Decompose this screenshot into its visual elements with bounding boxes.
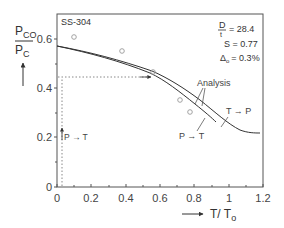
param-t: t bbox=[220, 31, 222, 38]
annotation-p-to-t: P → T bbox=[179, 131, 205, 141]
param-delta-sub: o bbox=[226, 58, 230, 64]
data-point bbox=[188, 110, 193, 115]
y-label-denominator: P bbox=[15, 43, 23, 57]
y-label-numerator-sub: CO bbox=[23, 30, 37, 40]
x-tick-label: 0.6 bbox=[152, 192, 167, 204]
param-d-over-t-value: = 28.4 bbox=[229, 24, 254, 34]
y-tick-label: 0.4 bbox=[37, 82, 52, 94]
y-tick-label: 0 bbox=[46, 181, 52, 193]
analysis-curves bbox=[57, 46, 260, 133]
param-s-value: S = 0.77 bbox=[224, 39, 258, 49]
y-label-denominator-sub: C bbox=[23, 49, 30, 59]
parameters-legend: D t = 28.4 S = 0.77 Δo= 0.3% bbox=[218, 20, 260, 64]
svg-text:PC: PC bbox=[15, 43, 30, 59]
y-tick-label: 0.2 bbox=[37, 131, 52, 143]
chart: 0 0.2 0.4 0.6 0 0.2 0.4 0.6 0.8 1 1.2 PC… bbox=[0, 0, 284, 228]
y-label-numerator: P bbox=[15, 24, 23, 38]
load-path: P → T bbox=[58, 77, 151, 186]
x-tick-label: 1.2 bbox=[255, 192, 270, 204]
x-axis-label: T/ To bbox=[182, 207, 236, 223]
x-tick-label: 0.2 bbox=[83, 192, 98, 204]
x-label-text: T/ T bbox=[210, 207, 232, 221]
experiment-points bbox=[72, 35, 193, 115]
svg-text:PCO: PCO bbox=[15, 24, 37, 40]
svg-text:T/ To: T/ To bbox=[210, 207, 236, 223]
curve-t-to-p bbox=[57, 46, 260, 133]
data-point bbox=[72, 35, 77, 40]
y-axis-label: PCO PC bbox=[15, 24, 37, 86]
data-point bbox=[120, 49, 125, 54]
x-label-sub: o bbox=[231, 213, 236, 223]
param-d: D bbox=[219, 20, 226, 30]
x-tick-label: 0 bbox=[54, 192, 60, 204]
annotation-t-to-p: T → P bbox=[226, 106, 251, 116]
y-tick-labels: 0 0.2 0.4 0.6 bbox=[37, 33, 52, 193]
y-tick-label: 0.6 bbox=[37, 33, 52, 45]
x-tick-labels: 0 0.2 0.4 0.6 0.8 1 1.2 bbox=[54, 192, 271, 204]
annotation-p-to-t-left: P → T bbox=[64, 132, 88, 142]
x-tick-label: 1 bbox=[226, 192, 232, 204]
svg-text:Δo= 0.3%: Δo= 0.3% bbox=[220, 53, 260, 64]
chart-title: SS-304 bbox=[61, 17, 91, 27]
param-delta-value: = 0.3% bbox=[231, 53, 259, 63]
x-tick-label: 0.4 bbox=[118, 192, 133, 204]
data-point bbox=[178, 98, 183, 103]
annotation-analysis: Analysis bbox=[197, 78, 231, 88]
x-tick-label: 0.8 bbox=[186, 192, 201, 204]
